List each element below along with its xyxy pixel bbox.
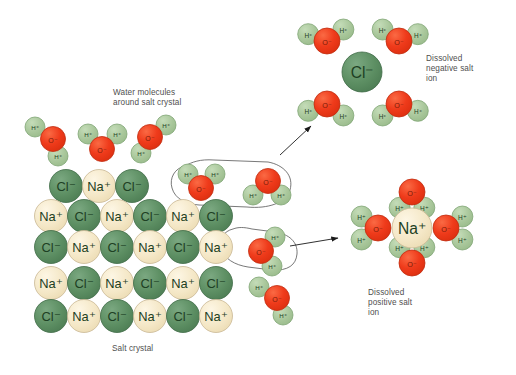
oxygen-label: O⁻ xyxy=(322,38,332,47)
connector-arrows xyxy=(280,126,338,246)
sodium-ion: Na⁺ xyxy=(167,200,200,233)
hydrogen-label: H⁺ xyxy=(357,214,366,221)
sodium-ion: Na⁺ xyxy=(134,231,167,264)
sodium-ion: Na⁺ xyxy=(101,200,134,233)
oxygen-label: O⁻ xyxy=(407,189,417,198)
chloride-ion: Cl⁻ xyxy=(134,267,167,300)
chloride-ion: Cl⁻ xyxy=(68,267,101,300)
water-molecule: H⁺ H⁺ O⁻ xyxy=(249,227,286,276)
ion-label: Cl⁻ xyxy=(56,179,75,194)
oxygen-label: O⁻ xyxy=(97,147,106,154)
ion-label: Cl⁻ xyxy=(206,209,225,224)
ion-label: Cl⁻ xyxy=(140,276,159,291)
ion-label: Na⁺ xyxy=(398,220,426,237)
oxygen-label: O⁻ xyxy=(48,137,57,144)
water-molecule: H⁺ H⁺ O⁻ xyxy=(131,115,176,163)
ion-label: Na⁺ xyxy=(72,240,95,255)
oxygen-label: O⁻ xyxy=(145,135,154,142)
dissolved-positive-ion-cluster: H⁺H⁺O⁻H⁺H⁺O⁻H⁺H⁺O⁻H⁺H⁺O⁻Na⁺ xyxy=(351,179,473,276)
oxygen-label: O⁻ xyxy=(441,225,451,234)
ion-label: Na⁺ xyxy=(204,309,227,324)
sodium-ion: Na⁺ xyxy=(392,208,432,248)
water-molecule: H⁺ H⁺ O⁻ xyxy=(249,277,293,325)
sodium-ion: Na⁺ xyxy=(200,300,233,333)
hydrogen-label: H⁺ xyxy=(340,113,348,120)
chloride-ion: Cl⁻ xyxy=(200,200,233,233)
sodium-ion: Na⁺ xyxy=(83,170,116,203)
ion-label: Na⁺ xyxy=(105,276,128,291)
chloride-ion: Cl⁻ xyxy=(50,170,83,203)
hydrogen-label: H⁺ xyxy=(414,108,422,115)
dissolved-negative-ion-cluster: H⁺H⁺O⁻H⁺H⁺O⁻H⁺H⁺O⁻H⁺H⁺O⁻Cl⁻ xyxy=(298,19,429,126)
hydrogen-label: H⁺ xyxy=(184,171,191,178)
sodium-ion: Na⁺ xyxy=(68,300,101,333)
ion-label: Cl⁻ xyxy=(173,309,192,324)
oxygen-label: O⁻ xyxy=(394,101,404,110)
arrow-to-negative-ion xyxy=(280,126,311,155)
ion-label: Na⁺ xyxy=(138,309,161,324)
oxygen-label: O⁻ xyxy=(394,38,404,47)
hydrogen-label: H⁺ xyxy=(458,237,467,244)
sodium-ion: Na⁺ xyxy=(167,267,200,300)
chloride-ion: Cl⁻ xyxy=(134,200,167,233)
chloride-ion: Cl⁻ xyxy=(101,300,134,333)
chloride-ion: Cl⁻ xyxy=(35,300,68,333)
water-molecule: H⁺H⁺O⁻ xyxy=(298,91,354,126)
ion-label: Cl⁻ xyxy=(74,276,93,291)
ion-label: Na⁺ xyxy=(39,276,62,291)
hydrogen-label: H⁺ xyxy=(277,192,284,199)
chloride-ion: Cl⁻ xyxy=(68,200,101,233)
sodium-ion: Na⁺ xyxy=(200,231,233,264)
water-molecule: H⁺ H⁺ O⁻ xyxy=(243,169,291,206)
arrow-to-positive-ion xyxy=(290,238,338,246)
hydrogen-label: H⁺ xyxy=(255,284,262,291)
ion-label: Cl⁻ xyxy=(41,240,60,255)
oxygen-label: O⁻ xyxy=(196,186,205,193)
sodium-ion: Na⁺ xyxy=(134,300,167,333)
oxygen-label: O⁻ xyxy=(256,249,265,256)
oxygen-label: O⁻ xyxy=(272,296,281,303)
hydrogen-label: H⁺ xyxy=(84,131,91,138)
water-molecule: H⁺H⁺O⁻ xyxy=(372,19,428,54)
water-molecule: H⁺H⁺O⁻ xyxy=(351,206,391,250)
ion-label: Na⁺ xyxy=(171,276,194,291)
hydrogen-label: H⁺ xyxy=(458,214,467,221)
hydrogen-label: H⁺ xyxy=(268,263,275,270)
ion-label: Cl⁻ xyxy=(41,309,60,324)
hydrogen-label: H⁺ xyxy=(414,32,422,39)
caption-dissolved-negative-ion: Dissolved negative salt ion xyxy=(426,54,473,85)
chloride-ion: Cl⁻ xyxy=(167,231,200,264)
ion-label: Na⁺ xyxy=(138,240,161,255)
hydrogen-label: H⁺ xyxy=(54,153,61,160)
ion-label: Na⁺ xyxy=(171,209,194,224)
caption-salt-crystal: Salt crystal xyxy=(112,344,153,354)
water-molecule: H⁺H⁺O⁻ xyxy=(298,19,354,54)
water-molecule: H⁺H⁺O⁻ xyxy=(372,91,428,126)
sodium-ion: Na⁺ xyxy=(101,267,134,300)
sodium-ion: Na⁺ xyxy=(35,267,68,300)
chloride-ion: Cl⁻ xyxy=(342,52,382,92)
water-molecule: H⁺ H⁺ O⁻ xyxy=(178,164,225,201)
hydrogen-label: H⁺ xyxy=(137,150,144,157)
caption-dissolved-positive-ion: Dissolved positive salt ion xyxy=(368,288,412,319)
hydrogen-label: H⁺ xyxy=(249,192,256,199)
chloride-ion: Cl⁻ xyxy=(167,300,200,333)
water-molecule: H⁺ H⁺ O⁻ xyxy=(78,124,127,162)
ion-label: Na⁺ xyxy=(39,209,62,224)
hydrogen-label: H⁺ xyxy=(162,122,169,129)
caption-water-molecules: Water molecules around salt crystal xyxy=(113,88,181,108)
chloride-ion: Cl⁻ xyxy=(35,231,68,264)
water-molecule: H⁺H⁺O⁻ xyxy=(433,206,473,250)
ion-label: Cl⁻ xyxy=(107,240,126,255)
water-molecule: H⁺ H⁺ O⁻ xyxy=(25,117,68,166)
ion-label: Cl⁻ xyxy=(122,179,141,194)
hydrogen-label: H⁺ xyxy=(31,124,38,131)
oxygen-label: O⁻ xyxy=(322,101,332,110)
ion-label: Cl⁻ xyxy=(140,209,159,224)
hydrogen-label: H⁺ xyxy=(113,131,120,138)
ion-label: Na⁺ xyxy=(87,179,110,194)
sodium-ion: Na⁺ xyxy=(68,231,101,264)
chloride-ion: Cl⁻ xyxy=(116,170,149,203)
hydrogen-label: H⁺ xyxy=(304,32,312,39)
ion-label: Cl⁻ xyxy=(173,240,192,255)
